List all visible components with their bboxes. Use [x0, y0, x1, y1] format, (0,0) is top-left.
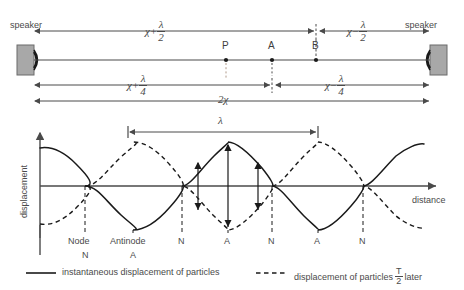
- point-dot-p: [224, 58, 228, 62]
- point-label-b: B: [312, 41, 319, 51]
- standing-wave-figure: speaker speaker χ+λ2 χ−λ2 χ+λ4 χ−λ4 2χ P…: [0, 0, 464, 290]
- node-antinode-label-6: N: [359, 237, 366, 246]
- measure-top-left-fraction: λ2: [157, 19, 165, 43]
- measure-bottom-right-num: λ: [337, 73, 345, 86]
- measure-bottom-right-den: 4: [337, 86, 345, 98]
- point-dot-a: [270, 58, 274, 62]
- x-axis-label: distance: [412, 196, 446, 205]
- legend-dashed-prefix: displacement of particles: [294, 272, 393, 282]
- measure-bottom-left-fraction: λ4: [139, 73, 147, 97]
- node-antinode-label-4: N: [268, 237, 275, 246]
- measure-bottom-left-den: 4: [139, 86, 147, 98]
- legend-dashed-suffix: later: [405, 272, 423, 282]
- legend-dashed-fraction: T2: [395, 267, 403, 287]
- measure-bottom-left-num: λ: [139, 73, 147, 86]
- node-antinode-sub-1: A: [130, 251, 136, 260]
- legend-solid-label: instantaneous displacement of particles: [62, 268, 220, 277]
- node-antinode-label-1: Antinode: [110, 237, 146, 246]
- measure-bottom-left-op: +: [132, 79, 139, 91]
- node-antinode-label-5: A: [314, 237, 320, 246]
- measure-top-right-num: λ: [359, 19, 367, 32]
- measure-bottom-left-label: χ+λ4: [127, 74, 147, 98]
- figure-canvas: [0, 0, 464, 290]
- measure-bottom-right-label: χ−λ4: [325, 74, 345, 98]
- node-antinode-label-2: N: [178, 237, 185, 246]
- measure-top-right-label: χ−λ2: [347, 20, 367, 44]
- y-axis-label: displacement: [20, 165, 29, 218]
- wavelength-label: λ: [218, 115, 223, 126]
- measure-bottom-right-op: −: [330, 79, 337, 91]
- measure-top-right-den: 2: [359, 32, 367, 44]
- measure-top-left-label: χ+λ2: [145, 20, 165, 44]
- measure-top-left-op: +: [150, 25, 157, 37]
- measure-bottom-right-fraction: λ4: [337, 73, 345, 97]
- speaker-right-label: speaker: [405, 21, 437, 30]
- legend-dashed-label: displacement of particlesT2later: [294, 268, 422, 288]
- measure-top-right-op: −: [352, 25, 359, 37]
- node-antinode-label-3: A: [224, 237, 230, 246]
- point-label-a: A: [268, 41, 275, 51]
- measure-top-left-num: λ: [157, 19, 165, 32]
- node-antinode-label-0: Node: [68, 237, 90, 246]
- measure-top-right-fraction: λ2: [359, 19, 367, 43]
- node-antinode-sub-0: N: [82, 251, 89, 260]
- speaker-left-label: speaker: [10, 21, 42, 30]
- point-dot-b: [314, 58, 318, 62]
- measure-total-label: 2χ: [218, 94, 228, 105]
- measure-top-left-den: 2: [157, 32, 165, 44]
- legend-dashed-den: 2: [395, 277, 403, 286]
- point-label-p: P: [222, 41, 229, 51]
